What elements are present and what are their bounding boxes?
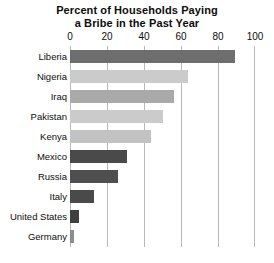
bar-kenya[interactable]: [70, 130, 151, 143]
plot-area: [70, 46, 255, 247]
bar-row[interactable]: [70, 167, 255, 187]
bar-russia[interactable]: [70, 170, 118, 183]
category-label-kenya: Kenya: [0, 131, 67, 142]
bar-nigeria[interactable]: [70, 70, 188, 83]
category-label-pakistan: Pakistan: [0, 111, 67, 122]
category-label-mexico: Mexico: [0, 151, 67, 162]
x-axis-tick-20: 20: [101, 31, 112, 43]
category-label-germany: Germany: [0, 231, 67, 242]
bar-liberia[interactable]: [70, 50, 235, 63]
bar-chart: Percent of Households Paying a Bribe in …: [0, 0, 274, 263]
x-axis-tick-100: 100: [247, 31, 264, 43]
chart-title-line-2: a Bribe in the Past Year: [0, 17, 274, 30]
bar-row[interactable]: [70, 187, 255, 207]
bar-row[interactable]: [70, 66, 255, 86]
x-axis-tick-0: 0: [67, 31, 73, 43]
category-label-iraq: Iraq: [0, 91, 67, 102]
chart-title-line-1: Percent of Households Paying: [56, 4, 218, 16]
x-axis-tick-labels: 020406080100: [0, 31, 274, 45]
bar-row[interactable]: [70, 207, 255, 227]
x-axis-tick-40: 40: [138, 31, 149, 43]
bar-row[interactable]: [70, 106, 255, 126]
bar-row[interactable]: [70, 147, 255, 167]
bar-mexico[interactable]: [70, 150, 127, 163]
category-label-united-states: United States: [0, 211, 67, 222]
bar-iraq[interactable]: [70, 90, 174, 103]
category-label-italy: Italy: [0, 191, 67, 202]
bar-row[interactable]: [70, 86, 255, 106]
category-label-liberia: Liberia: [0, 51, 67, 62]
bar-italy[interactable]: [70, 190, 94, 203]
y-axis-category-labels: LiberiaNigeriaIraqPakistanKenyaMexicoRus…: [0, 46, 67, 247]
bar-germany[interactable]: [70, 230, 74, 243]
bar-row[interactable]: [70, 227, 255, 247]
category-label-russia: Russia: [0, 171, 67, 182]
x-axis-tick-80: 80: [212, 31, 223, 43]
bar-rows: [70, 46, 255, 247]
bar-row[interactable]: [70, 46, 255, 66]
bar-pakistan[interactable]: [70, 110, 163, 123]
x-axis-tick-60: 60: [175, 31, 186, 43]
category-label-nigeria: Nigeria: [0, 71, 67, 82]
chart-title: Percent of Households Paying a Bribe in …: [0, 4, 274, 30]
bar-row[interactable]: [70, 126, 255, 146]
bar-united-states[interactable]: [70, 210, 79, 223]
